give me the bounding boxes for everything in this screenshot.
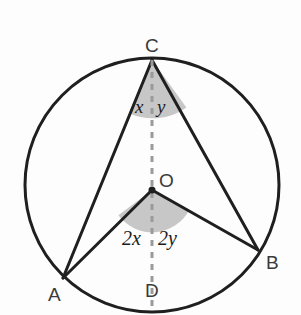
label-angle-2x: 2x: [122, 228, 141, 248]
label-point-d: D: [145, 281, 159, 300]
circle-geometry-figure: C A B O D x y 2x 2y: [0, 0, 301, 315]
label-point-c: C: [145, 36, 159, 55]
label-point-b: B: [266, 253, 279, 272]
label-angle-x: x: [135, 97, 143, 116]
label-point-o: O: [159, 171, 174, 190]
center-point-dot: [149, 187, 156, 194]
label-angle-2y: 2y: [158, 228, 177, 248]
label-angle-y: y: [157, 97, 165, 116]
label-point-a: A: [48, 285, 61, 304]
